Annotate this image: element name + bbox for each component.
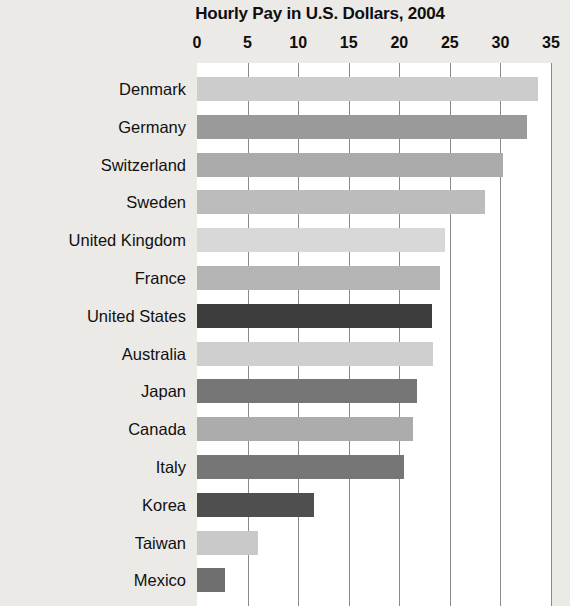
category-label-switzerland: Switzerland bbox=[0, 153, 186, 177]
category-label-denmark: Denmark bbox=[0, 77, 186, 101]
category-label-mexico: Mexico bbox=[0, 568, 186, 592]
x-axis-tick-labels: 05101520253035 bbox=[197, 34, 551, 58]
bar-italy[interactable] bbox=[197, 455, 404, 479]
bar-rows: DenmarkGermanySwitzerlandSwedenUnited Ki… bbox=[0, 0, 570, 606]
x-tick-label-25: 25 bbox=[441, 34, 459, 52]
gridline-20 bbox=[399, 63, 400, 606]
x-tick-label-10: 10 bbox=[289, 34, 307, 52]
category-label-sweden: Sweden bbox=[0, 190, 186, 214]
bar-row[interactable]: Germany bbox=[0, 115, 570, 139]
bar-canada[interactable] bbox=[197, 417, 413, 441]
category-label-korea: Korea bbox=[0, 493, 186, 517]
bar-united-states[interactable] bbox=[197, 304, 432, 328]
bar-row[interactable]: Korea bbox=[0, 493, 570, 517]
bar-taiwan[interactable] bbox=[197, 531, 258, 555]
bar-denmark[interactable] bbox=[197, 77, 538, 101]
bar-row[interactable]: France bbox=[0, 266, 570, 290]
bar-mexico[interactable] bbox=[197, 568, 225, 592]
x-tick-label-20: 20 bbox=[390, 34, 408, 52]
category-label-united-states: United States bbox=[0, 304, 186, 328]
gridline-10 bbox=[298, 63, 299, 606]
bar-row[interactable]: Switzerland bbox=[0, 153, 570, 177]
chart-title: Hourly Pay in U.S. Dollars, 2004 bbox=[0, 4, 570, 24]
bar-row[interactable]: Denmark bbox=[0, 77, 570, 101]
category-label-italy: Italy bbox=[0, 455, 186, 479]
bar-japan[interactable] bbox=[197, 379, 417, 403]
gridline-5 bbox=[248, 63, 249, 606]
x-tick-label-5: 5 bbox=[243, 34, 252, 52]
category-label-united-kingdom: United Kingdom bbox=[0, 228, 186, 252]
gridline-25 bbox=[450, 63, 451, 606]
bar-row[interactable]: United States bbox=[0, 304, 570, 328]
category-label-germany: Germany bbox=[0, 115, 186, 139]
x-tick-label-35: 35 bbox=[542, 34, 560, 52]
bar-row[interactable]: Mexico bbox=[0, 568, 570, 592]
bar-row[interactable]: Japan bbox=[0, 379, 570, 403]
bar-row[interactable]: Taiwan bbox=[0, 531, 570, 555]
gridline-30 bbox=[500, 63, 501, 606]
bar-row[interactable]: Australia bbox=[0, 342, 570, 366]
category-label-australia: Australia bbox=[0, 342, 186, 366]
bar-row[interactable]: United Kingdom bbox=[0, 228, 570, 252]
bar-united-kingdom[interactable] bbox=[197, 228, 445, 252]
bar-australia[interactable] bbox=[197, 342, 433, 366]
x-tick-label-15: 15 bbox=[340, 34, 358, 52]
bar-korea[interactable] bbox=[197, 493, 314, 517]
bar-sweden[interactable] bbox=[197, 190, 485, 214]
bar-switzerland[interactable] bbox=[197, 153, 503, 177]
bar-row[interactable]: Italy bbox=[0, 455, 570, 479]
category-label-taiwan: Taiwan bbox=[0, 531, 186, 555]
plot-area bbox=[197, 63, 552, 606]
x-tick-label-0: 0 bbox=[193, 34, 202, 52]
axis-line-right bbox=[551, 63, 552, 606]
gridline-15 bbox=[349, 63, 350, 606]
bar-row[interactable]: Sweden bbox=[0, 190, 570, 214]
x-tick-label-30: 30 bbox=[492, 34, 510, 52]
bar-germany[interactable] bbox=[197, 115, 527, 139]
bar-row[interactable]: Canada bbox=[0, 417, 570, 441]
category-label-canada: Canada bbox=[0, 417, 186, 441]
category-label-france: France bbox=[0, 266, 186, 290]
chart-page: Hourly Pay in U.S. Dollars, 2004 0510152… bbox=[0, 0, 570, 606]
bar-france[interactable] bbox=[197, 266, 440, 290]
category-label-japan: Japan bbox=[0, 379, 186, 403]
